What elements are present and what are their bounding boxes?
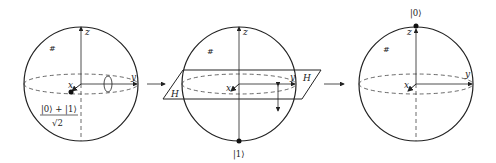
sphere-panel-2: z y x # H H |1⟩ bbox=[163, 27, 321, 160]
h-plane bbox=[163, 70, 321, 99]
state-denominator: √2 bbox=[52, 118, 63, 128]
plane-label-right: H bbox=[302, 73, 311, 83]
x-axis bbox=[231, 84, 239, 91]
y-label: y bbox=[464, 69, 471, 79]
z-label: z bbox=[406, 27, 412, 37]
hilbert-label: # bbox=[207, 47, 214, 56]
sphere-panel-1: z y x # |0⟩ + |1⟩ √2 bbox=[24, 27, 138, 141]
state-point bbox=[237, 139, 242, 144]
state-point bbox=[69, 90, 74, 95]
state-label: |0⟩ bbox=[410, 8, 422, 19]
z-label: z bbox=[242, 27, 248, 37]
x-label: x bbox=[404, 80, 409, 90]
state-label: |1⟩ bbox=[233, 149, 245, 160]
plane-label-left: H bbox=[170, 89, 179, 99]
hilbert-label: # bbox=[383, 45, 390, 54]
bloch-diagram: z y x # |0⟩ + |1⟩ √2 z y x # H H |1⟩ bbox=[0, 0, 496, 163]
x-label: x bbox=[226, 83, 231, 93]
z-label: z bbox=[84, 27, 90, 37]
x-axis bbox=[408, 84, 416, 91]
y-label: y bbox=[289, 72, 296, 82]
y-label: y bbox=[130, 72, 137, 82]
x-label: x bbox=[68, 80, 73, 90]
hilbert-label: # bbox=[49, 44, 56, 53]
sphere-panel-3: z y x # |0⟩ bbox=[359, 8, 473, 141]
state-point bbox=[414, 24, 419, 29]
x-axis bbox=[72, 84, 81, 91]
state-numerator: |0⟩ + |1⟩ bbox=[41, 104, 77, 115]
